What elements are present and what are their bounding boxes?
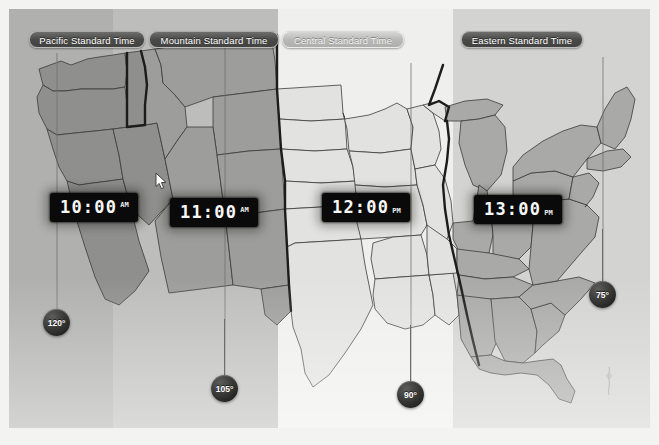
longitude-marker-105-label: 105° xyxy=(216,384,234,394)
map-region-eastern xyxy=(445,87,635,403)
clock-central-time: 12:00 xyxy=(332,199,389,216)
clock-pacific-meridiem: AM xyxy=(120,202,128,209)
longitude-marker-120-label: 120° xyxy=(48,318,66,328)
longitude-pin-line-105 xyxy=(224,319,225,375)
timezone-label-mountain[interactable]: Mountain Standard Time xyxy=(149,31,279,48)
longitude-pin-line-90 xyxy=(410,325,411,381)
longitude-marker-120[interactable]: 120° xyxy=(43,309,70,336)
longitude-pin-line-75 xyxy=(602,229,603,281)
clock-eastern-time: 13:00 xyxy=(484,201,541,218)
longitude-marker-105[interactable]: 105° xyxy=(211,375,238,402)
map-region-central xyxy=(277,85,459,387)
longitude-marker-75[interactable]: 75° xyxy=(589,281,616,308)
time-zone-map-window: 120° 105° 90° 75° 10:00 AM 11:00 AM 12:0… xyxy=(0,0,659,445)
map-canvas[interactable]: 120° 105° 90° 75° 10:00 AM 11:00 AM 12:0… xyxy=(9,9,650,428)
clock-mountain-time: 11:00 xyxy=(180,204,237,221)
timezone-label-eastern[interactable]: Eastern Standard Time xyxy=(461,31,583,48)
clock-central[interactable]: 12:00 PM xyxy=(322,193,410,222)
clock-pacific[interactable]: 10:00 AM xyxy=(50,193,138,222)
clock-pacific-time: 10:00 xyxy=(60,199,117,216)
timezone-label-pacific[interactable]: Pacific Standard Time xyxy=(29,31,145,48)
clock-eastern-meridiem: PM xyxy=(544,210,552,217)
clock-eastern[interactable]: 13:00 PM xyxy=(474,195,562,224)
clock-mountain[interactable]: 11:00 AM xyxy=(170,198,258,227)
longitude-marker-90[interactable]: 90° xyxy=(397,381,424,408)
timezone-label-central[interactable]: Central Standard Time xyxy=(282,31,404,48)
longitude-marker-90-label: 90° xyxy=(404,390,417,400)
longitude-marker-75-label: 75° xyxy=(596,290,609,300)
clock-mountain-meridiem: AM xyxy=(240,207,248,214)
clock-central-meridiem: PM xyxy=(392,208,400,215)
